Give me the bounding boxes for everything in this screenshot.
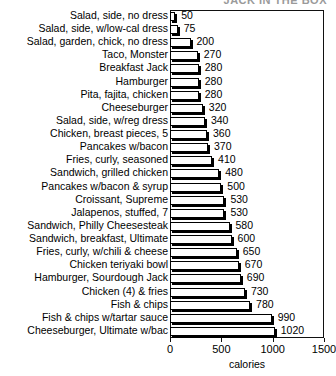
- bar: [170, 91, 199, 100]
- bar: [170, 51, 198, 60]
- bar-value-label: 780: [256, 298, 274, 311]
- bar-value-label: 370: [214, 140, 232, 153]
- bar-face: [170, 301, 250, 310]
- bar-face: [170, 288, 245, 297]
- bar: [170, 248, 237, 257]
- bar-value-label: 990: [278, 311, 296, 324]
- bar: [170, 288, 245, 297]
- category-label: Fish & chips: [111, 298, 168, 311]
- category-label: Salad, side, w/low-cal dress: [38, 22, 168, 35]
- bar-value-label: 1020: [281, 324, 304, 337]
- category-label: Pancakes w/bacon & syrup: [41, 180, 168, 193]
- bar-value-label: 320: [209, 101, 227, 114]
- category-label: Jalapenos, stuffed, 7: [71, 206, 168, 219]
- bar-face: [170, 209, 224, 218]
- bar-value-label: 600: [238, 232, 256, 245]
- category-label: Croissant, Supreme: [75, 193, 168, 206]
- chart-title: JACK IN THE BOX: [224, 0, 327, 6]
- bar-value-label: 670: [245, 258, 263, 271]
- bar: [170, 143, 208, 152]
- category-label: Fish & chips w/tartar sauce: [42, 311, 168, 324]
- category-label: Taco, Monster: [102, 48, 168, 61]
- category-label: Pancakes w/bacon: [80, 140, 168, 153]
- bar-value-label: 410: [218, 153, 236, 166]
- category-label: Salad, side, no dress: [70, 9, 168, 22]
- bar: [170, 209, 224, 218]
- bar: [170, 38, 191, 47]
- x-axis: calories 050010001500: [170, 338, 324, 376]
- bar-face: [170, 130, 207, 139]
- bar: [170, 196, 224, 205]
- category-label: Salad, side, w/reg dress: [56, 114, 168, 127]
- bar-rows: Salad, side, no dress50Salad, side, w/lo…: [0, 10, 331, 338]
- category-label: Pita, fajita, chicken: [80, 88, 168, 101]
- bar: [170, 64, 199, 73]
- bar-value-label: 480: [225, 166, 243, 179]
- bar-face: [170, 78, 199, 87]
- bar-face: [170, 12, 175, 21]
- bar-face: [170, 169, 219, 178]
- bar-value-label: 530: [230, 193, 248, 206]
- bar: [170, 156, 212, 165]
- bar-value-label: 530: [230, 206, 248, 219]
- x-axis-tick: [221, 338, 222, 342]
- category-label: Hamburger, Sourdough Jack: [34, 271, 168, 284]
- bar-face: [170, 196, 224, 205]
- bar-value-label: 500: [227, 180, 245, 193]
- x-axis-tick-label: 0: [167, 343, 173, 356]
- bar-row: Cheeseburger, Ultimate w/bac1020: [0, 325, 331, 338]
- bar: [170, 130, 207, 139]
- bar-face: [170, 314, 272, 323]
- bar-value-label: 270: [204, 48, 222, 61]
- bar: [170, 12, 175, 21]
- x-axis-tick-label: 1500: [312, 343, 336, 356]
- bar: [170, 78, 199, 87]
- bar-face: [170, 38, 191, 47]
- bar: [170, 222, 230, 231]
- bar-value-label: 200: [197, 35, 215, 48]
- bar-face: [170, 274, 241, 283]
- category-label: Sandwich, Philly Cheesesteak: [27, 219, 168, 232]
- bar: [170, 261, 239, 270]
- category-label: Sandwich, grilled chicken: [50, 166, 168, 179]
- category-label: Chicken, breast pieces, 5: [50, 127, 168, 140]
- bar-face: [170, 51, 198, 60]
- bar-value-label: 75: [184, 22, 196, 35]
- category-label: Breakfast Jack: [99, 61, 168, 74]
- x-axis-tick: [273, 338, 274, 342]
- bar-face: [170, 91, 199, 100]
- category-label: Salad, garden, chick, no dress: [27, 35, 168, 48]
- category-label: Sandwich, breakfast, Ultimate: [29, 232, 168, 245]
- bar: [170, 274, 241, 283]
- x-axis-tick-label: 1000: [260, 343, 284, 356]
- bar-face: [170, 327, 275, 336]
- bar: [170, 235, 232, 244]
- category-label: Fries, curly, seasoned: [66, 153, 168, 166]
- bar-face: [170, 261, 239, 270]
- category-label: Chicken (4) & fries: [82, 285, 168, 298]
- category-label: Fries, curly, w/chili & cheese: [36, 245, 168, 258]
- bar-face: [170, 222, 230, 231]
- category-label: Cheeseburger: [101, 101, 168, 114]
- bar-face: [170, 64, 199, 73]
- category-label: Chicken teriyaki bowl: [69, 258, 168, 271]
- bar: [170, 25, 178, 34]
- bar-face: [170, 235, 232, 244]
- bar-value-label: 280: [205, 61, 223, 74]
- bar: [170, 169, 219, 178]
- bar-value-label: 690: [247, 271, 265, 284]
- bar-value-label: 280: [205, 88, 223, 101]
- bar-face: [170, 104, 203, 113]
- bar-face: [170, 156, 212, 165]
- x-axis-tick: [170, 338, 171, 342]
- x-axis-tick-label: 500: [212, 343, 230, 356]
- bar: [170, 301, 250, 310]
- bar-value-label: 650: [243, 245, 261, 258]
- x-axis-tick: [324, 338, 325, 342]
- bar: [170, 314, 272, 323]
- bar: [170, 117, 205, 126]
- bar-value-label: 50: [181, 9, 193, 22]
- bar: [170, 104, 203, 113]
- bar-face: [170, 143, 208, 152]
